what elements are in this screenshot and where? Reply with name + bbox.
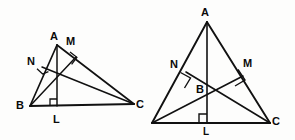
left-vertex-label-B: B: [16, 100, 24, 111]
right-foot-label-M: M: [243, 58, 252, 69]
left-foot-label-M: M: [66, 36, 75, 47]
right-triangle-group: [152, 22, 270, 123]
geometry-figure: A B C L M N A B C L M N: [0, 0, 295, 140]
left-side-CA: [57, 45, 134, 104]
right-foot-label-N: N: [170, 59, 178, 70]
right-vertex-label-A: A: [201, 7, 209, 18]
left-side-BC: [30, 104, 134, 106]
left-vertex-label-A: A: [50, 31, 58, 42]
right-side-A-right: [207, 22, 270, 123]
figure-canvas: [0, 0, 295, 140]
right-side-A-left: [152, 22, 207, 123]
left-vertex-label-C: C: [136, 99, 144, 110]
left-foot-label-L: L: [53, 114, 60, 125]
left-triangle-group: [30, 45, 134, 106]
right-right-angle-mark-L: [199, 114, 207, 123]
right-vertex-label-C: C: [272, 116, 280, 127]
right-right-angle-mark-N: [181, 73, 191, 89]
right-orthocenter-label-B: B: [196, 84, 204, 95]
right-foot-label-L: L: [203, 127, 209, 137]
left-foot-label-N: N: [27, 56, 35, 67]
